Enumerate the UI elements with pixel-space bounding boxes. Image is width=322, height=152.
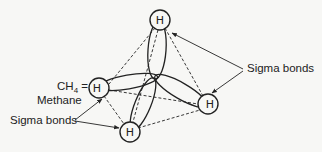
sigma-orbital-lobes [97, 20, 211, 133]
compound-name-label: Methane [37, 94, 82, 106]
formula-ch: CH [57, 80, 74, 92]
atom-label-top: H [156, 14, 164, 27]
sigma-bonds-label-right: Sigma bonds [247, 62, 314, 74]
atom-label-right: H [206, 98, 214, 111]
methane-tetrahedral-diagram: H H H H [0, 0, 322, 152]
atom-label-bottom: H [126, 126, 134, 139]
hydrogen-atom-right: H [198, 94, 218, 114]
sigma-bonds-label-left: Sigma bonds [10, 114, 77, 126]
atom-label-left: H [93, 82, 101, 95]
formula-equals: = [78, 80, 88, 92]
hydrogen-atom-bottom: H [120, 122, 140, 142]
formula-label: CH4 = [57, 80, 88, 95]
hydrogen-atom-left: H [89, 78, 109, 98]
hydrogen-atom-top: H [150, 10, 170, 30]
